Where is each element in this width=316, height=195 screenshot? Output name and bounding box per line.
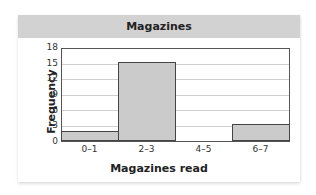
chart-title: Magazines [126,20,192,33]
y-tick: 3 [42,120,58,130]
y-tick: 0 [42,136,58,146]
chart-title-bar: Magazines [18,15,300,38]
chart-card: Magazines Frequency 18 15 12 9 6 3 0 0–1… [18,15,300,182]
y-tick: 18 [42,42,58,52]
plot-area [61,48,290,142]
x-tick: 4–5 [175,144,232,154]
y-tick: 9 [42,89,58,99]
bar-2-3 [118,62,176,141]
x-tick: 0–1 [61,144,118,154]
y-tick: 12 [42,73,58,83]
y-tick: 15 [42,58,58,68]
x-tick: 6–7 [232,144,289,154]
y-tick: 6 [42,105,58,115]
bar-6-7 [232,124,290,141]
x-axis-label: Magazines read [18,162,300,175]
bar-0-1 [61,131,119,141]
x-tick: 2–3 [118,144,175,154]
